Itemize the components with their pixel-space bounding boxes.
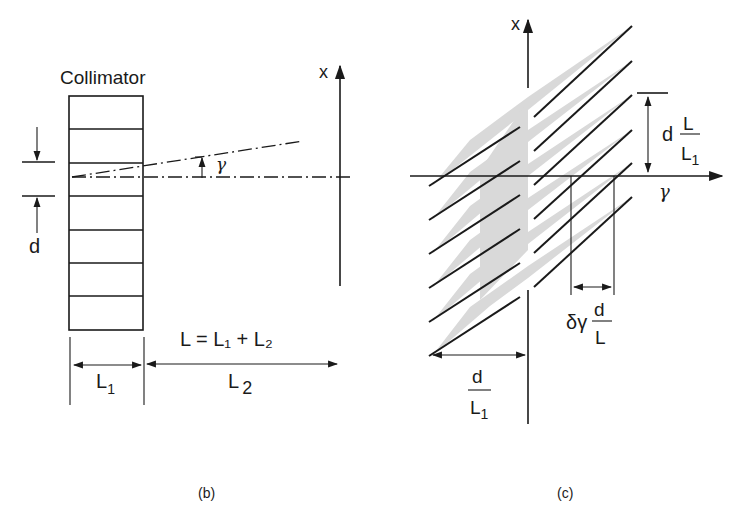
resolution-label: δγ d L [566, 299, 612, 348]
x-axis-label: x [511, 14, 520, 34]
collimator-label: Collimator [60, 67, 146, 88]
gamma-axis-label: γ [659, 181, 670, 202]
panel-c: x γ d L L1 δγ d L d L1 (c) [410, 14, 722, 501]
period-label: d L L1 [662, 113, 700, 168]
angle-label: γ [216, 154, 227, 174]
svg-text:L: L [683, 113, 694, 134]
period-denominator: L1 [681, 143, 700, 168]
caption-c: (c) [557, 485, 573, 501]
width-label: d L1 [468, 366, 491, 422]
svg-text:L: L [595, 327, 606, 348]
spacing-label: d [29, 235, 40, 257]
collimator [69, 96, 143, 330]
svg-text:d: d [594, 299, 605, 320]
svg-text:d: d [662, 123, 673, 145]
l2-label: L2 [228, 370, 252, 398]
spacing-marker: d [22, 127, 55, 257]
l1-label: L1 [96, 370, 115, 397]
tilted-ray [72, 141, 303, 177]
svg-text:L1: L1 [470, 397, 489, 422]
caption-b: (b) [198, 485, 215, 501]
x-axis-label: x [319, 62, 328, 82]
svg-text:δγ: δγ [566, 311, 587, 333]
svg-text:d: d [472, 366, 483, 387]
diagram-canvas: Collimator d γ x [0, 0, 736, 523]
panel-b: Collimator d γ x [22, 62, 354, 501]
length-equation: L = L₁ + L₂ [180, 328, 273, 350]
